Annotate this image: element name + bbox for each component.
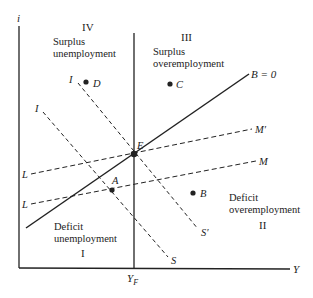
x-axis-label: Y xyxy=(293,263,301,275)
quadrant-ii-line2: overemployment xyxy=(229,204,300,215)
point-b-marker xyxy=(190,190,195,195)
balance-line xyxy=(26,74,249,228)
is-lower-start-label: I xyxy=(34,103,39,114)
point-d-label: D xyxy=(92,78,101,89)
quadrant-iii-line1: Surplus xyxy=(153,46,185,57)
quadrant-ii-numeral: II xyxy=(259,219,267,231)
quadrant-iv-line2: unemployment xyxy=(53,48,116,59)
quadrant-i-line1: Deficit xyxy=(54,221,83,232)
point-e-label: E xyxy=(136,140,144,151)
balance-line-label: B = 0 xyxy=(251,68,277,80)
quadrant-iv-line1: Surplus xyxy=(53,36,85,47)
quadrant-iii-numeral: III xyxy=(181,31,192,43)
lm-lower-end-label: M xyxy=(258,156,269,167)
point-a-label: A xyxy=(111,175,119,186)
lm-lower-start-label: L xyxy=(21,199,28,210)
point-b-label: B xyxy=(200,188,207,199)
lm-curve-upper xyxy=(31,129,252,174)
point-c-marker xyxy=(167,81,172,86)
lm-upper-start-label: L xyxy=(21,169,28,180)
point-d-marker xyxy=(83,79,88,84)
quadrant-iv-numeral: IV xyxy=(82,21,94,33)
is-upper-end-label: S′ xyxy=(201,227,209,238)
is-upper-start-label: I xyxy=(68,74,73,85)
point-c-label: C xyxy=(176,79,184,90)
quadrant-ii-line1: Deficit xyxy=(229,192,258,203)
quadrant-i-numeral: I xyxy=(81,247,85,259)
x-axis xyxy=(19,268,290,269)
point-a-marker xyxy=(109,187,114,192)
point-e-marker xyxy=(131,151,138,158)
is-curve-upper xyxy=(78,83,198,229)
quadrant-iii-line2: overemployment xyxy=(153,58,224,69)
quadrant-i-line2: unemployment xyxy=(54,233,117,244)
policy-mix-diagram: i Y YF B = 0 I S′ I S L M′ L M E A B C D… xyxy=(0,0,313,298)
y-axis-label: i xyxy=(17,12,20,24)
is-lower-end-label: S xyxy=(171,255,177,266)
lm-upper-end-label: M′ xyxy=(254,124,267,135)
full-employment-label: YF xyxy=(127,272,138,287)
